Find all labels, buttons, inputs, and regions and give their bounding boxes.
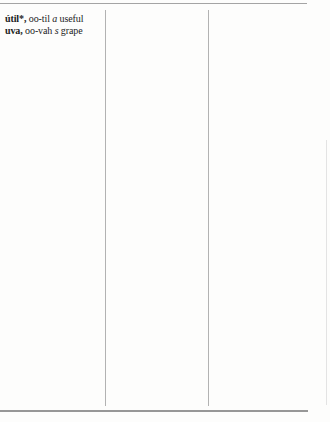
entry-definition: grape [61, 25, 83, 36]
column-divider-right [208, 10, 209, 406]
entry-part-of-speech: s [55, 25, 59, 36]
bottom-rule [0, 410, 308, 412]
dictionary-entry: uva, oo-vah s grape [5, 25, 101, 37]
column-divider-left [105, 10, 106, 406]
entry-part-of-speech: a [52, 13, 57, 24]
entries-column: útil*, oo-til a useful uva, oo-vah s gra… [5, 13, 101, 37]
entry-definition: useful [60, 13, 84, 24]
dictionary-entry: útil*, oo-til a useful [5, 13, 101, 25]
entry-headword: útil*, [5, 13, 26, 24]
entry-pronunciation: oo-vah [25, 25, 52, 36]
page-edge-line [326, 140, 327, 405]
entry-pronunciation: oo-til [29, 13, 50, 24]
top-rule [0, 3, 307, 4]
entry-headword: uva, [5, 25, 23, 36]
dictionary-page: útil*, oo-til a useful uva, oo-vah s gra… [0, 0, 330, 422]
